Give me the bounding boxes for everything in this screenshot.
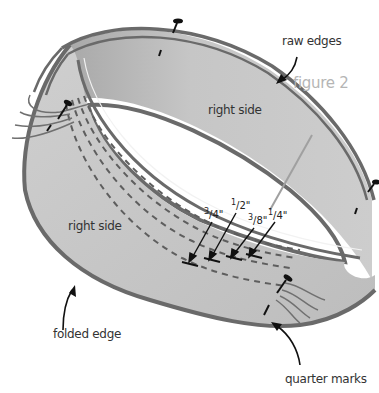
- folded-edge-label: folded edge: [53, 328, 121, 340]
- raw-edges-label: raw edges: [282, 35, 341, 47]
- right-side-inner-label: right side: [208, 104, 262, 116]
- seam-allowance-3-8: 3/8": [248, 214, 267, 226]
- quarter-marks-label: quarter marks: [285, 373, 367, 385]
- right-side-outer-label: right side: [68, 220, 122, 232]
- figure-caption: figure 2: [293, 76, 348, 91]
- seam-allowance-1-2: 1/2": [231, 199, 250, 211]
- seam-allowance-3-4: 3/4": [204, 208, 223, 220]
- diagram-stage: raw edges figure 2 right side right side…: [0, 0, 379, 393]
- seam-allowance-1-4: 1/4": [268, 209, 287, 221]
